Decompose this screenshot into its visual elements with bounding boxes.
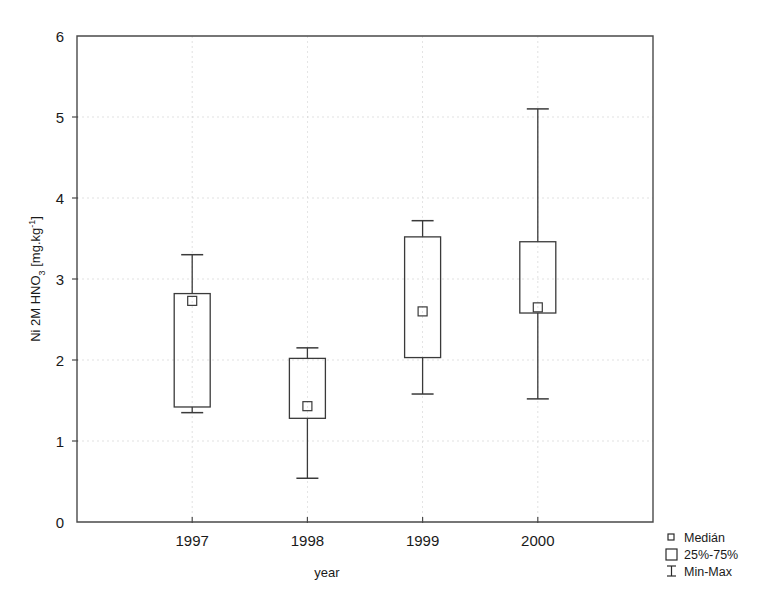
x-axis-title-text: year [314, 565, 340, 580]
iqr-square-icon [666, 549, 677, 560]
box-plot-series [174, 109, 556, 478]
y-tick-label: 4 [56, 190, 64, 207]
box-plot-item [174, 255, 210, 413]
legend-label: Min-Max [684, 565, 733, 579]
legend-item: Medián [668, 531, 725, 545]
legend-item: 25%-75% [666, 548, 738, 562]
x-tick-label: 1997 [176, 532, 209, 549]
x-axis-title: year [314, 565, 340, 580]
y-axis-title-text: Ni 2M HNO3 [mg.kg-1] [27, 216, 47, 342]
y-tick-label: 0 [56, 514, 64, 531]
x-tick-label: 2000 [521, 532, 554, 549]
box-plot-item [520, 109, 556, 399]
y-axis-title: Ni 2M HNO3 [mg.kg-1] [27, 216, 47, 342]
y-tick-label: 2 [56, 352, 64, 369]
legend-label: Medián [684, 531, 725, 545]
box-plot-canvas: 0123456 1997199819992000 Ni 2M HNO3 [mg.… [0, 0, 770, 601]
y-tick-label: 3 [56, 271, 64, 288]
chart-figure: 0123456 1997199819992000 Ni 2M HNO3 [mg.… [0, 0, 770, 601]
legend-item: Min-Max [667, 565, 733, 579]
y-tick-label: 5 [56, 109, 64, 126]
x-tick-label: 1998 [291, 532, 324, 549]
median-square-icon [668, 534, 674, 540]
iqr-box [174, 294, 210, 407]
y-axis-tick-labels: 0123456 [56, 28, 64, 531]
chart-legend: Medián25%-75%Min-Max [666, 531, 738, 579]
x-axis-tick-labels: 1997199819992000 [176, 532, 555, 549]
y-tick-label: 1 [56, 433, 64, 450]
x-tick-label: 1999 [406, 532, 439, 549]
legend-label: 25%-75% [684, 548, 738, 562]
y-tick-label: 6 [56, 28, 64, 45]
grid-lines [77, 36, 653, 522]
